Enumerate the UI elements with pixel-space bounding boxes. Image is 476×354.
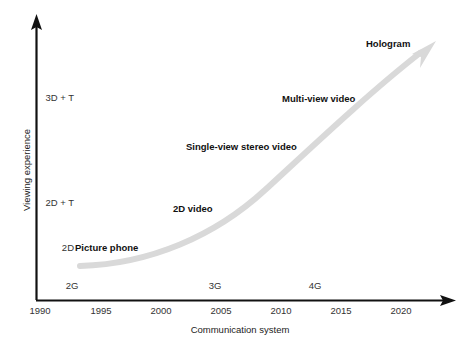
x-tick-label-2020: 2020	[390, 306, 411, 316]
x-tick-label-1990: 1990	[29, 306, 50, 316]
chart-canvas	[0, 0, 476, 354]
x-axis-title: Communication system	[191, 325, 290, 335]
y-tick-label-3d-t: 3D + T	[38, 93, 74, 103]
x-tick-label-1995: 1995	[90, 306, 111, 316]
annotation-hologram: Hologram	[366, 39, 410, 49]
y-axis-title: Viewing experience	[22, 129, 32, 211]
x-tick-label-2015: 2015	[330, 306, 351, 316]
y-tick-label-2d: 2D	[38, 243, 74, 253]
annotation-picture-phone: Picture phone	[75, 243, 138, 253]
annotation-multi-view-video: Multi-view video	[282, 94, 355, 104]
x-tick-label-2000: 2000	[150, 306, 171, 316]
generation-label-3g: 3G	[209, 281, 222, 291]
y-axis	[31, 14, 42, 300]
trend-arrow-curve	[80, 53, 420, 266]
trend-arrow	[80, 41, 436, 266]
generation-label-4g: 4G	[309, 281, 322, 291]
annotation-single-view-stereo-video: Single-view stereo video	[186, 142, 297, 152]
trend-arrow-head	[412, 41, 436, 68]
x-tick-label-2010: 2010	[270, 306, 291, 316]
y-tick-label-2d-t: 2D + T	[38, 198, 74, 208]
generation-label-2g: 2G	[66, 281, 79, 291]
x-tick-label-2005: 2005	[210, 306, 231, 316]
chart-figure: Viewing experience 3D + T 2D + T 2D 1990…	[0, 0, 476, 354]
annotation-2d-video: 2D video	[173, 204, 213, 214]
